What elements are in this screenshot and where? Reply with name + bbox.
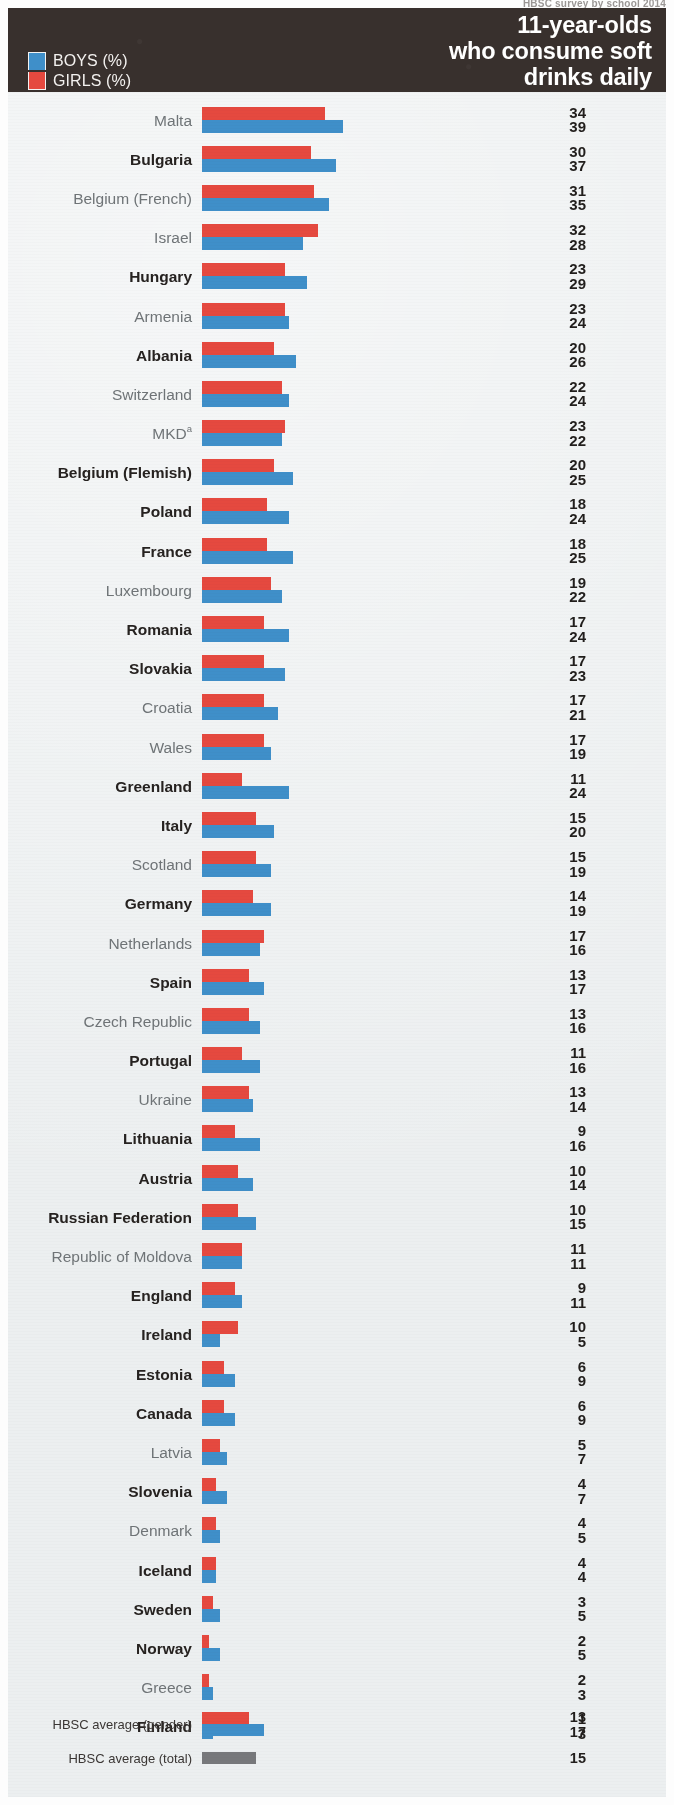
average-total-bars [202, 1752, 492, 1764]
table-row: Scotland1519 [8, 845, 666, 884]
bar-girls [202, 420, 285, 433]
country-label: Wales [8, 738, 192, 755]
value-pair: 1014 [540, 1163, 586, 1192]
bar-boys [202, 1217, 256, 1230]
bar-boys [202, 120, 343, 133]
value-pair: 1719 [540, 732, 586, 761]
value-boys: 23 [540, 668, 586, 683]
value-pair: 45 [540, 1516, 586, 1545]
bar-boys [202, 1530, 220, 1543]
bar-pair [202, 1204, 492, 1230]
country-label: Portugal [8, 1052, 192, 1069]
value-pair: 2324 [540, 301, 586, 330]
table-row: France1825 [8, 531, 666, 570]
value-boys: 24 [540, 511, 586, 526]
value-boys: 5 [540, 1609, 586, 1624]
value-pair: 105 [540, 1320, 586, 1349]
value-boys: 25 [540, 472, 586, 487]
value-boys: 19 [540, 903, 586, 918]
bar-boys [202, 1021, 260, 1034]
bar-girls [202, 616, 264, 629]
table-row: Lithuania916 [8, 1119, 666, 1158]
value-pair: 69 [540, 1398, 586, 1427]
table-row: Latvia57 [8, 1432, 666, 1471]
value-pair: 1317 [540, 967, 586, 996]
country-label: Albania [8, 346, 192, 363]
value-boys: 24 [540, 316, 586, 331]
value-boys: 11 [540, 1295, 586, 1310]
table-row: Switzerland2224 [8, 374, 666, 413]
country-label: Netherlands [8, 934, 192, 951]
country-label: Bulgaria [8, 150, 192, 167]
value-pair: 1724 [540, 615, 586, 644]
value-boys: 7 [540, 1491, 586, 1506]
bar-boys [202, 982, 264, 995]
bar-boys [202, 668, 285, 681]
country-label: Czech Republic [8, 1012, 192, 1029]
bar-boys [202, 629, 289, 642]
value-boys: 14 [540, 1178, 586, 1193]
value-boys: 20 [540, 825, 586, 840]
bar-boys [202, 433, 282, 446]
country-label: Canada [8, 1404, 192, 1421]
table-row: Slovakia1723 [8, 649, 666, 688]
bar-pair [202, 303, 492, 329]
page-title: 11-year-olds who consume soft drinks dai… [449, 12, 652, 90]
bar-pair [202, 655, 492, 681]
value-pair: 44 [540, 1555, 586, 1584]
bar-girls [202, 851, 256, 864]
value-boys: 35 [540, 198, 586, 213]
value-boys: 5 [540, 1334, 586, 1349]
bar-pair [202, 1165, 492, 1191]
country-rows: Malta3439Bulgaria3037Belgium (French)313… [8, 100, 666, 1746]
bar-total [202, 1752, 256, 1764]
bar-pair [202, 1674, 492, 1700]
table-row: Belgium (French)3135 [8, 178, 666, 217]
country-label: Ukraine [8, 1091, 192, 1108]
table-row: Poland1824 [8, 492, 666, 531]
average-gender-row: HBSC average (gender)1317 [8, 1707, 666, 1741]
table-row: Portugal1116 [8, 1041, 666, 1080]
table-row: Hungary2329 [8, 257, 666, 296]
bar-girls [202, 1596, 213, 1609]
bar-boys [202, 237, 303, 250]
bar-boys [202, 1060, 260, 1073]
table-row: Israel3228 [8, 218, 666, 257]
value-pair: 35 [540, 1594, 586, 1623]
value-boys: 16 [540, 1021, 586, 1036]
bar-boys [202, 707, 278, 720]
country-label: Latvia [8, 1443, 192, 1460]
table-row: Estonia69 [8, 1354, 666, 1393]
bar-pair [202, 1439, 492, 1465]
bar-girls [202, 1243, 242, 1256]
value-pair: 3037 [540, 144, 586, 173]
bar-girls [202, 1361, 224, 1374]
value-boys: 21 [540, 707, 586, 722]
legend: BOYS (%) GIRLS (%) [28, 51, 131, 91]
bar-girls [202, 146, 311, 159]
table-row: Canada69 [8, 1393, 666, 1432]
average-gender-bars [202, 1712, 492, 1736]
value-girls: 13 [540, 1710, 586, 1725]
bar-boys [202, 1138, 260, 1151]
value-pair: 2224 [540, 379, 586, 408]
country-label: Poland [8, 503, 192, 520]
value-pair: 1723 [540, 654, 586, 683]
bar-boys [202, 1724, 264, 1736]
bar-pair [202, 107, 492, 133]
bar-pair [202, 694, 492, 720]
bar-girls [202, 930, 264, 943]
value-boys: 25 [540, 551, 586, 566]
country-label: Slovenia [8, 1483, 192, 1500]
table-row: Croatia1721 [8, 688, 666, 727]
bar-pair [202, 498, 492, 524]
bar-pair [202, 224, 492, 250]
value-boys: 3 [540, 1687, 586, 1702]
bar-pair [202, 263, 492, 289]
bar-boys [202, 276, 307, 289]
table-row: MKDa2322 [8, 414, 666, 453]
table-row: Spain1317 [8, 962, 666, 1001]
country-label: England [8, 1287, 192, 1304]
value-pair: 57 [540, 1437, 586, 1466]
country-label: Belgium (Flemish) [8, 464, 192, 481]
